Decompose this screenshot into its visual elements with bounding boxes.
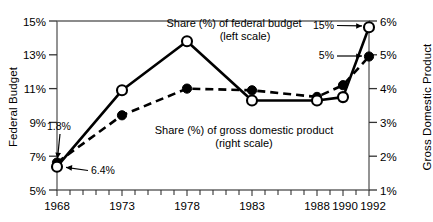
legend-budget-line2: (left scale)	[220, 30, 271, 42]
right-axis-title: Gross Domestic Product	[421, 24, 433, 190]
right-tick-label: 6%	[380, 16, 397, 28]
right-tick-label: 2%	[380, 151, 397, 163]
series-gdp-line	[57, 57, 369, 163]
x-axis-minor-ticks	[57, 190, 369, 196]
right-tick-label: 3%	[380, 117, 397, 129]
right-tick-labels: 6% 5% 4% 3% 2% 1%	[380, 16, 397, 197]
right-tick-label: 5%	[380, 49, 397, 61]
left-tick-label: 7%	[29, 151, 46, 163]
data-point	[52, 162, 62, 172]
x-tick-label: 1983	[239, 200, 265, 212]
data-point	[312, 96, 322, 106]
left-tick-label: 13%	[23, 49, 46, 61]
annotation-15: 15%	[313, 19, 334, 31]
legend-budget-line1: Share (%) of federal budget	[166, 17, 301, 29]
x-tick-label: 1973	[109, 200, 135, 212]
left-tick-labels: 15% 13% 11% 9% 7% 5%	[23, 16, 46, 197]
x-tick-label: 1992	[360, 200, 386, 212]
data-point	[247, 86, 256, 95]
series-gdp-markers	[52, 52, 373, 167]
data-point	[364, 52, 373, 61]
annotation-5: 5%	[319, 49, 334, 61]
legend-gdp-line1: Share (%) of gross domestic product	[155, 124, 334, 136]
series-budget-markers	[52, 22, 374, 172]
data-point	[338, 92, 348, 102]
data-point	[182, 84, 191, 93]
left-tick-label: 15%	[23, 16, 46, 28]
data-point	[338, 81, 347, 90]
right-tick-label: 1%	[380, 185, 397, 197]
left-tick-label: 11%	[24, 83, 46, 95]
left-tick-label: 5%	[29, 185, 46, 197]
x-tick-labels: 1968 1973 1978 1983 1988 1990 1992	[44, 200, 386, 212]
data-point	[182, 36, 192, 46]
right-axis-ticks	[369, 21, 377, 190]
annotation-1-8: 1.8%	[47, 120, 71, 132]
annotation-6-4: 6.4%	[91, 164, 115, 176]
x-tick-label: 1988	[304, 200, 330, 212]
data-point	[117, 85, 127, 95]
x-tick-label: 1990	[332, 200, 358, 212]
data-point	[247, 96, 257, 106]
data-point	[364, 22, 374, 32]
left-tick-label: 9%	[29, 117, 46, 129]
data-point	[117, 111, 126, 120]
right-tick-label: 4%	[380, 83, 397, 95]
x-tick-label: 1978	[174, 200, 200, 212]
legend-gdp-line2: (right scale)	[215, 137, 272, 149]
legend-gdp: Share (%) of gross domestic product (rig…	[155, 124, 334, 149]
x-tick-label: 1968	[44, 200, 70, 212]
